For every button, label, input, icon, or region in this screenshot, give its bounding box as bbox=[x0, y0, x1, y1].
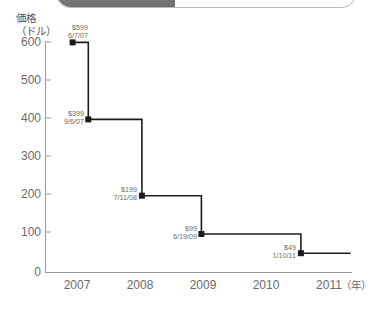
price-step-chart: 価格 （ドル） 600 500 400 300 200 100 0 2007 bbox=[0, 0, 377, 310]
annotation-49-date: 1/10/11 bbox=[273, 251, 296, 260]
y-tick-200: 200 bbox=[21, 187, 41, 201]
y-tick-400: 400 bbox=[21, 111, 41, 125]
annotation-199: $199 7/11/08 bbox=[114, 185, 137, 202]
y-tick-500: 500 bbox=[21, 73, 41, 87]
marker-99[interactable] bbox=[198, 231, 204, 237]
annotation-399: $399 9/6/07 bbox=[64, 109, 84, 126]
x-tick-2007: 2007 bbox=[64, 278, 91, 292]
marker-49[interactable] bbox=[298, 250, 304, 256]
annotation-99-date: 6/19/09 bbox=[173, 232, 197, 241]
x-tick-2011: 2011 bbox=[316, 278, 342, 292]
price-step-line bbox=[73, 42, 350, 253]
annotation-599-date: 6/7/07 bbox=[68, 31, 88, 40]
y-tick-100: 100 bbox=[21, 225, 41, 239]
x-axis-unit-label: （年） bbox=[341, 279, 371, 291]
x-tick-2009: 2009 bbox=[190, 278, 217, 292]
x-tick-labels: 2007 2008 2009 2010 2011 （年） bbox=[64, 278, 371, 292]
y-tick-300: 300 bbox=[21, 149, 41, 163]
marker-599[interactable] bbox=[70, 39, 76, 45]
x-tick-2008: 2008 bbox=[127, 278, 154, 292]
y-tick-0: 0 bbox=[34, 265, 41, 279]
x-tick-2010: 2010 bbox=[253, 278, 280, 292]
y-axis-label: 価格 （ドル） bbox=[16, 12, 56, 37]
chart-svg: 600 500 400 300 200 100 0 2007 2008 2009… bbox=[0, 0, 377, 310]
annotation-199-date: 7/11/08 bbox=[114, 193, 137, 202]
y-axis-label-line1: 価格 bbox=[16, 12, 56, 25]
marker-399[interactable] bbox=[85, 116, 91, 122]
y-axis-label-line2: （ドル） bbox=[16, 25, 56, 38]
y-tick-labels: 600 500 400 300 200 100 0 bbox=[21, 35, 41, 279]
annotation-599: $599 6/7/07 bbox=[68, 23, 88, 40]
annotation-49: $49 1/10/11 bbox=[273, 243, 296, 260]
annotation-399-date: 9/6/07 bbox=[64, 117, 84, 126]
marker-199[interactable] bbox=[139, 193, 145, 199]
annotation-99: $99 6/19/09 bbox=[173, 224, 197, 241]
y-tick-600: 600 bbox=[21, 35, 41, 49]
